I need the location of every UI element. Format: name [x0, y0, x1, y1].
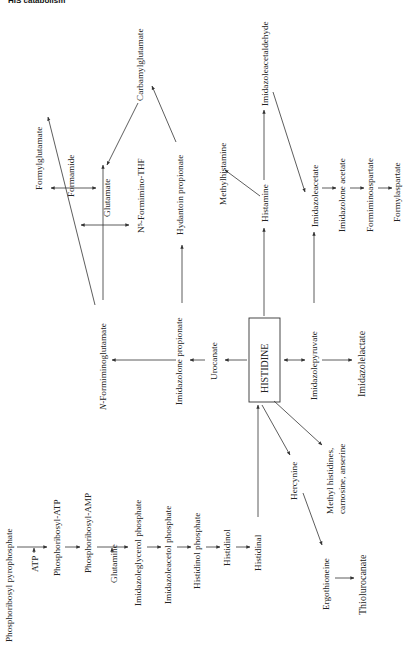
label-formylaspartate: Formylaspartate — [392, 162, 402, 222]
label-imidazolepyruvate: Imidazolepyruvate — [309, 331, 319, 400]
label-formiminoaspartate: Formiminoaspartate — [365, 158, 375, 232]
arrow-histidine-to-methylhistidines — [274, 401, 322, 445]
label-hercynine: Hercynine — [289, 462, 299, 500]
histidine-node: HISTIDINE — [249, 318, 280, 402]
label-urocanate: Urocanate — [209, 342, 219, 380]
label-histamine: Histamine — [260, 184, 270, 222]
arrow-iaald-to-iaa — [273, 92, 305, 192]
label-methyl-histidines-2: carnosine, anserine — [337, 444, 347, 514]
label-iap: Imidazoleacetol phosphate — [163, 506, 173, 604]
label-imidazolone-propionate: Imidazolone propionate — [174, 317, 184, 405]
label-imidazolone-acetate: Imidazolone acetate — [337, 158, 347, 232]
label-igp: Imidazoleglycerol phosphate — [133, 500, 143, 606]
label-atp: ATP — [30, 556, 40, 572]
label-imidazoleacetate: Imidazoleacetate — [310, 165, 320, 227]
urocanate-pathway: Urocanate Imidazolone propionate N-Formi… — [34, 29, 247, 411]
label-imidazolelactate: Imidazolelactate — [356, 330, 367, 397]
label-histidinal: Histidinal — [253, 534, 263, 571]
label-pr-atp: Phosphoribosyl-ATP — [52, 499, 62, 576]
arrow-carbamyl-to-glutamate — [107, 103, 138, 165]
label-glutamate: Glutamate — [102, 179, 112, 217]
arrow-histamine-to-methylhistamine — [225, 170, 260, 196]
label-methyl-histidines-1: Methyl histidines, — [325, 448, 335, 514]
section-header: HIS catabolism — [8, 0, 65, 5]
label-hydantoin-propionate: Hydantoin propionate — [175, 155, 185, 235]
label-prpp: Phosphoribosyl pyrophosphate — [4, 528, 14, 642]
label-ergothioneine: Ergothioneine — [321, 558, 331, 610]
other-products: Hercynine Methyl histidines, carnosine, … — [262, 401, 368, 615]
label-thiolurocanate: Thiolurocanate — [357, 554, 368, 615]
label-n-formiminoglutamate: N-Formiminoglutamate — [98, 323, 108, 411]
label-n5-formimino-thf: N⁵-Formimino-THF — [136, 158, 146, 233]
histamine-pathway: Histamine Methylhistamine Imidazoleaceta… — [218, 21, 402, 316]
label-formamide: Formamide — [66, 155, 76, 197]
histidine-metabolism-diagram: HIS catabolism Phosphoribosyl pyrophosph… — [0, 0, 405, 645]
label-histidinol-phosphate: Histidinol phosphate — [192, 513, 202, 589]
label-histidinol: Histidinol — [222, 529, 232, 566]
label-formylglutamate: Formylglutamate — [34, 127, 44, 190]
label-histidine: HISTIDINE — [259, 344, 270, 393]
label-carbamylglutamate: Carbamylglutamate — [135, 29, 145, 101]
biosynthesis-pathway: Phosphoribosyl pyrophosphate ATP Phospho… — [4, 405, 263, 642]
arrow-hercynine-to-ergothioneine — [303, 493, 322, 545]
label-pr-amp: Phosphoribosyl-AMP — [83, 493, 93, 573]
arrow-histidine-to-hercynine — [262, 405, 290, 455]
label-imidazoleacetaldehyde: Imidazoleacetaldehyde — [260, 21, 270, 106]
arrow-figlu-to-formylglutamate — [48, 117, 95, 305]
label-glutamine: Glutamine — [109, 544, 119, 583]
arrow-hydantoin-to-carbamyl — [152, 86, 176, 142]
transamination-pathway: Imidazolepyruvate Imidazolelactate — [284, 330, 367, 400]
label-methylhistamine: Methylhistamine — [218, 143, 228, 205]
